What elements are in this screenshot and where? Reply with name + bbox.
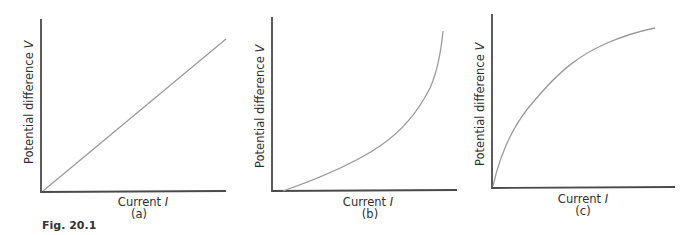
axes-c — [492, 14, 675, 188]
sublabel-b: (b) — [362, 207, 378, 221]
ylabel-b: Potential difference V — [253, 44, 267, 168]
figure-caption: Fig. 20.1 — [42, 219, 96, 232]
ylabel-a: Potential difference V — [22, 40, 36, 164]
curve-b — [283, 31, 443, 191]
sublabel-a: (a) — [131, 207, 147, 221]
figure-canvas: Potential difference V Current I (a) Pot… — [0, 0, 686, 235]
ylabel-c: Potential difference V — [473, 42, 487, 166]
curve-c — [493, 28, 655, 186]
panel-a: Potential difference V Current I (a) — [22, 19, 226, 221]
line-a — [43, 39, 226, 191]
axes-b — [272, 17, 457, 191]
sublabel-c: (c) — [575, 204, 590, 218]
panel-b: Potential difference V Current I (b) — [253, 17, 457, 221]
axes-a — [41, 19, 226, 192]
panel-c: Potential difference V Current I (c) — [473, 14, 675, 218]
